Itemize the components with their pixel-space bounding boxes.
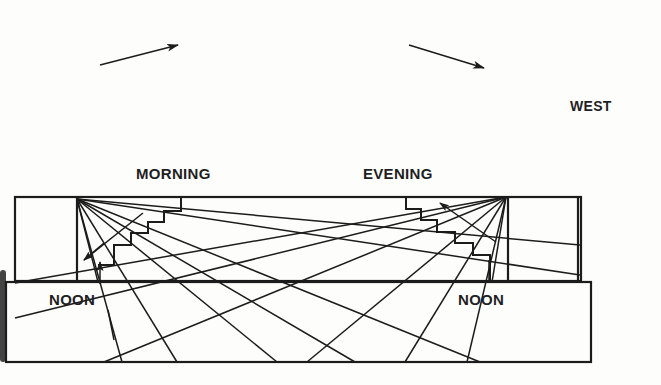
right-up-arrow-icon (440, 203, 496, 242)
label-noon-left: NOON (49, 291, 95, 308)
label-west: WEST (570, 98, 612, 114)
sun-angle-diagram (0, 0, 661, 385)
internal-arrows (84, 203, 496, 340)
arrow-rising-icon (100, 45, 178, 65)
ray-fan-right (15, 197, 506, 362)
sun-path-arrows (100, 45, 484, 68)
label-evening: EVENING (363, 165, 433, 182)
arrow-setting-icon (409, 45, 484, 68)
diagram-canvas: WEST MORNING EVENING NOON NOON (0, 0, 661, 385)
building-outline (6, 197, 591, 362)
label-noon-right: NOON (458, 291, 504, 308)
label-morning: MORNING (136, 165, 211, 182)
noon-left-tick (108, 310, 114, 340)
